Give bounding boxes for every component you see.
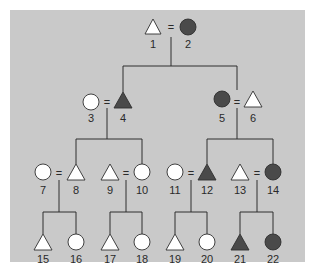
individual-7-circle-icon bbox=[35, 164, 51, 180]
individual-3-circle-icon bbox=[83, 94, 99, 110]
label-individual-9: 9 bbox=[98, 184, 122, 196]
label-individual-14: 14 bbox=[261, 184, 285, 196]
label-individual-4: 4 bbox=[111, 112, 135, 124]
individual-19-triangle-icon bbox=[166, 234, 184, 250]
label-individual-18: 18 bbox=[130, 253, 154, 265]
individual-21-triangle-icon bbox=[231, 234, 249, 250]
label-individual-6: 6 bbox=[241, 112, 265, 124]
label-individual-2: 2 bbox=[176, 38, 200, 50]
label-individual-8: 8 bbox=[64, 184, 88, 196]
label-individual-3: 3 bbox=[79, 112, 103, 124]
mating-symbol-13-14: = bbox=[252, 167, 262, 179]
individual-20-circle-icon bbox=[199, 234, 215, 250]
individual-5-circle-icon bbox=[214, 91, 230, 107]
individual-12-triangle-icon bbox=[198, 164, 216, 180]
individual-18-circle-icon bbox=[134, 234, 150, 250]
label-individual-22: 22 bbox=[261, 253, 285, 265]
label-individual-16: 16 bbox=[64, 253, 88, 265]
mating-symbol-3-4: = bbox=[102, 96, 112, 108]
individual-8-triangle-icon bbox=[67, 164, 85, 180]
mating-symbol-11-12: = bbox=[186, 167, 196, 179]
label-individual-11: 11 bbox=[163, 184, 187, 196]
individual-15-triangle-icon bbox=[34, 234, 52, 250]
label-individual-12: 12 bbox=[195, 184, 219, 196]
individual-10-circle-icon bbox=[134, 164, 150, 180]
individual-22-circle-icon bbox=[265, 234, 281, 250]
individual-11-circle-icon bbox=[167, 164, 183, 180]
individual-6-triangle-icon bbox=[244, 91, 262, 107]
mating-symbol-1-2: = bbox=[166, 21, 176, 33]
mating-symbol-7-8: = bbox=[54, 167, 64, 179]
individual-9-triangle-icon bbox=[101, 164, 119, 180]
individual-2-circle-icon bbox=[180, 19, 196, 35]
individual-13-triangle-icon bbox=[231, 164, 249, 180]
individual-4-triangle-icon bbox=[114, 92, 132, 108]
label-individual-17: 17 bbox=[98, 253, 122, 265]
label-individual-15: 15 bbox=[31, 253, 55, 265]
individual-17-triangle-icon bbox=[101, 234, 119, 250]
label-individual-10: 10 bbox=[130, 184, 154, 196]
label-individual-21: 21 bbox=[228, 253, 252, 265]
individual-14-circle-icon bbox=[265, 164, 281, 180]
label-individual-7: 7 bbox=[31, 184, 55, 196]
label-individual-1: 1 bbox=[141, 38, 165, 50]
individual-16-circle-icon bbox=[68, 234, 84, 250]
mating-symbol-9-10: = bbox=[121, 167, 131, 179]
label-individual-13: 13 bbox=[228, 184, 252, 196]
label-individual-20: 20 bbox=[195, 253, 219, 265]
label-individual-5: 5 bbox=[210, 112, 234, 124]
label-individual-19: 19 bbox=[163, 253, 187, 265]
individual-1-triangle-icon bbox=[145, 19, 161, 34]
mating-symbol-5-6: = bbox=[232, 96, 242, 108]
